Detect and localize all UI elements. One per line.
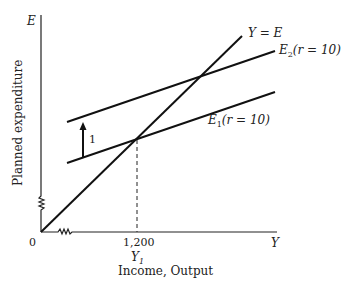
shift-label: 1 bbox=[89, 133, 96, 146]
y-equals-e-line bbox=[41, 36, 242, 232]
x-tick-value: 1,200 bbox=[123, 236, 155, 249]
origin-label: 0 bbox=[29, 236, 36, 249]
y-axis-symbol: E bbox=[26, 14, 36, 28]
x-axis-label: Income, Output bbox=[118, 264, 213, 278]
e1-label: E1(r = 10) bbox=[207, 113, 270, 129]
e1-line bbox=[67, 92, 275, 163]
y-equals-e-label: Y = E bbox=[248, 26, 283, 40]
x-axis-symbol: Y bbox=[271, 236, 280, 250]
y-axis bbox=[39, 15, 44, 232]
x-axis bbox=[41, 229, 277, 234]
y-axis-label: Planned expenditure bbox=[11, 60, 25, 186]
arrow-up-icon bbox=[80, 122, 87, 157]
e2-line bbox=[67, 51, 275, 122]
e2-label: E2(r = 10) bbox=[278, 43, 341, 59]
keynesian-cross-diagram: E Planned expenditure 0 1,200 Y1 Y Incom… bbox=[0, 0, 341, 289]
